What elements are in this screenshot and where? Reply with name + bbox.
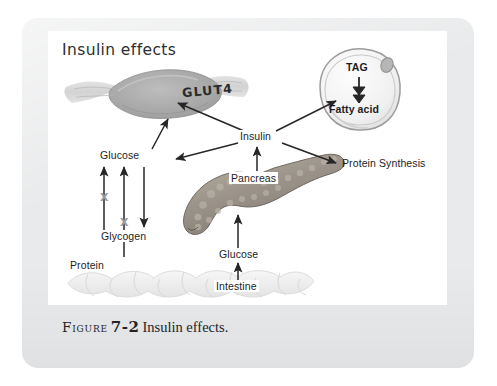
caption-number: 7-2 xyxy=(108,318,143,336)
label-glucose-gut: Glucose xyxy=(217,248,260,260)
label-pancreas: Pancreas xyxy=(229,172,278,184)
caption-label: Figure xyxy=(62,319,108,335)
inhibit-mark-protein: X xyxy=(120,216,128,229)
label-protein: Protein xyxy=(70,259,104,271)
scanned-page: Insulin effects GLUT4 TAG Fatty acid Ins… xyxy=(0,0,497,386)
label-protein-synthesis: Protein Synthesis xyxy=(342,157,425,169)
label-glucose-muscle: Glucose xyxy=(98,149,141,161)
label-fatty-acid: Fatty acid xyxy=(329,103,379,115)
arrow-insulin-to-adipocyte xyxy=(276,101,336,131)
figure-panel: Insulin effects GLUT4 TAG Fatty acid Ins… xyxy=(48,31,447,305)
inhibit-mark-glycogen: X xyxy=(100,191,108,204)
intestine-illustration xyxy=(68,271,314,297)
caption-text: Insulin effects. xyxy=(142,319,228,335)
label-glycogen: Glycogen xyxy=(99,230,148,242)
figure-title: Insulin effects xyxy=(62,41,176,59)
label-tag: TAG xyxy=(346,61,368,73)
pancreas-illustration xyxy=(184,154,345,234)
arrow-insulin-to-glucose xyxy=(176,143,238,159)
label-insulin: Insulin xyxy=(238,130,273,142)
figure-caption: Figure7-2Insulin effects. xyxy=(62,318,228,336)
arrow-glucose-to-muscle xyxy=(152,119,168,149)
label-intestine: Intestine xyxy=(214,280,259,292)
